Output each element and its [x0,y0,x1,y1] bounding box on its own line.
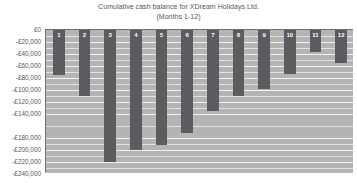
bar[interactable]: 11 [310,30,322,52]
y-axis-tick-label: -£140,000 [0,110,41,117]
plot-baseline [45,172,353,173]
bar-value-label: 12 [335,32,347,38]
y-axis: £0-£20,000-£40,000-£60,000-£80,000-£100,… [0,24,44,176]
bar-value-label: 5 [156,32,168,38]
bar[interactable]: 9 [258,30,270,89]
bar[interactable]: 2 [79,30,91,96]
cash-balance-bar-chart: Cumulative cash balance for XDream Holid… [0,0,357,183]
y-axis-tick-label: -£60,000 [0,62,41,69]
bar[interactable]: 5 [156,30,168,145]
bar[interactable]: 10 [284,30,296,74]
bar-value-label: 6 [181,32,193,38]
bar[interactable]: 1 [53,30,65,75]
bar[interactable]: 7 [207,30,219,111]
bar-value-label: 4 [130,32,142,38]
bar[interactable]: 12 [335,30,347,63]
bar[interactable]: 6 [181,30,193,133]
y-axis-tick-label: -£100,000 [0,86,41,93]
plot-area: 123456789101112 [45,29,353,173]
bar-value-label: 3 [104,32,116,38]
chart-title-block: Cumulative cash balance for XDream Holid… [0,2,357,22]
y-axis-tick-label: -£220,000 [0,158,41,165]
bar-value-label: 2 [79,32,91,38]
y-axis-tick-label: -£40,000 [0,50,41,57]
bar[interactable]: 8 [233,30,245,96]
bar[interactable]: 4 [130,30,142,150]
bar[interactable]: 3 [104,30,116,162]
bar-value-label: 1 [53,32,65,38]
y-axis-tick-label: -£20,000 [0,38,41,45]
bar-value-label: 10 [284,32,296,38]
bar-value-label: 8 [233,32,245,38]
bars-layer: 123456789101112 [46,30,353,173]
bar-value-label: 11 [310,32,322,38]
bar-value-label: 9 [258,32,270,38]
chart-subtitle: (Months 1-12) [0,12,357,22]
y-axis-tick-label: -£240,000 [0,170,41,177]
chart-title: Cumulative cash balance for XDream Holid… [0,2,357,12]
y-axis-tick-label: £0 [0,26,41,33]
y-axis-tick-label: -£200,000 [0,146,41,153]
bar-value-label: 7 [207,32,219,38]
y-axis-tick-label: -£80,000 [0,74,41,81]
y-axis-tick-label: -£120,000 [0,98,41,105]
y-axis-tick-label: -£180,000 [0,134,41,141]
